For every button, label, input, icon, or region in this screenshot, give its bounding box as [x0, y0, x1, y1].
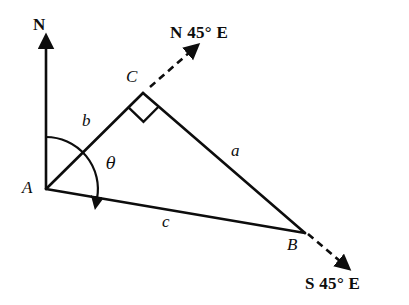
side-label-c: c	[162, 213, 170, 230]
vertex-label-b: B	[287, 236, 297, 253]
angle-label-theta: θ	[106, 156, 116, 172]
vertex-label-a: A	[22, 179, 32, 196]
vertex-label-c: C	[126, 68, 137, 85]
side-label-b: b	[82, 112, 91, 129]
diagram-canvas: N N 45° E S 45° E A B C a b c θ	[0, 0, 409, 305]
bearing-label-s45e: S 45° E	[305, 275, 360, 292]
bearing-triangle-figure	[0, 0, 409, 305]
side-label-a: a	[231, 142, 240, 159]
north-label: N	[33, 16, 46, 33]
bearing-arrow-n45e	[150, 52, 190, 87]
right-angle-marker-at-c	[129, 107, 159, 122]
bearing-label-n45e: N 45° E	[170, 24, 228, 41]
bearing-arrow-s45e	[308, 234, 341, 262]
triangle-side-c	[46, 189, 305, 233]
